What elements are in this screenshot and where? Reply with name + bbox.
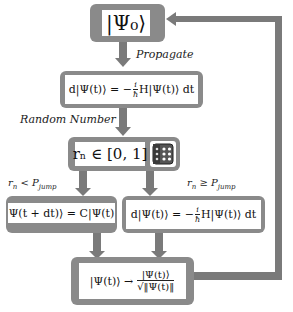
jump-equation-node: Ψ(t + dt)⟩ = C|Ψ(t)	[6, 196, 117, 233]
normalize-text: |Ψ(t)⟩ → |Ψ(t)⟩ √‖Ψ(t)‖	[79, 263, 186, 299]
random-number-text: rₙ ∈ [0, 1]	[75, 142, 145, 166]
arrow-head-random	[115, 127, 131, 136]
loop-top-segment	[175, 16, 282, 22]
fraction-i-hbar: i ħ	[133, 81, 138, 99]
random-number-expr: rₙ ∈ [0, 1]	[73, 145, 148, 163]
arrow-shaft-random	[119, 108, 127, 127]
normalize-eq-lhs: |Ψ(t)⟩ →	[90, 275, 133, 288]
frac-den-2: ħ	[195, 214, 200, 224]
normalize-den: √‖Ψ(t)‖	[137, 280, 174, 292]
normalize-node: |Ψ(t)⟩ → |Ψ(t)⟩ √‖Ψ(t)‖	[71, 257, 194, 305]
initial-state-node: |Ψ₀⟩	[90, 4, 165, 42]
arrow-shaft-propagate	[119, 42, 127, 58]
no-jump-eq-lhs: d|Ψ(t)⟩ = −	[131, 208, 194, 221]
arrow-shaft-nojump-to-normalize	[155, 233, 163, 251]
no-jump-equation-text: d|Ψ(t)⟩ = − i ħ H|Ψ(t)⟩ dt	[126, 200, 261, 229]
propagate-equation-text: d|Ψ(t)⟩ = − i ħ H|Ψ(t)⟩ dt	[65, 75, 198, 104]
random-number-label: Random Number	[20, 113, 116, 126]
frac-num: i	[134, 81, 137, 89]
normalize-num: |Ψ(t)⟩	[142, 270, 170, 280]
arrow-shaft-no-jump	[146, 171, 154, 188]
arrow-shaft-jump-to-normalize	[93, 233, 101, 251]
loop-bottom-segment	[194, 272, 282, 280]
jump-condition-label: rn < Pjump	[8, 177, 57, 191]
propagate-eq-rhs: H|Ψ(t)⟩ dt	[139, 83, 194, 96]
jump-eq-expr: Ψ(t + dt)⟩ = C|Ψ(t)	[9, 207, 115, 220]
no-jump-equation-node: d|Ψ(t)⟩ = − i ħ H|Ψ(t)⟩ dt	[122, 196, 265, 233]
normalize-fraction: |Ψ(t)⟩ √‖Ψ(t)‖	[137, 270, 174, 292]
arrow-head-no-jump	[142, 188, 158, 196]
jump-op: < P	[17, 177, 38, 188]
nojump-op: ≥ P	[196, 177, 217, 188]
propagate-eq-lhs: d|Ψ(t)⟩ = −	[69, 83, 132, 96]
random-number-node: rₙ ∈ [0, 1]	[68, 137, 180, 171]
loop-right-segment	[275, 16, 282, 280]
dice-icon	[150, 141, 176, 167]
initial-state-text: |Ψ₀⟩	[102, 10, 150, 36]
propagate-equation-node: d|Ψ(t)⟩ = − i ħ H|Ψ(t)⟩ dt	[60, 71, 203, 108]
propagate-label: Propagate	[136, 48, 193, 61]
jump-equation-text: Ψ(t + dt)⟩ = C|Ψ(t)	[8, 203, 115, 223]
no-jump-eq-rhs: H|Ψ(t)⟩ dt	[201, 208, 256, 221]
nojump-sub: jump	[218, 183, 236, 191]
arrow-shaft-jump	[79, 171, 87, 188]
no-jump-condition-label: rn ≥ Pjump	[187, 177, 236, 191]
loop-arrow-head	[166, 12, 176, 26]
jump-sub: jump	[39, 183, 57, 191]
initial-state-label: |Ψ₀⟩	[106, 11, 146, 35]
frac-num-2: i	[196, 206, 199, 214]
fraction-i-hbar-2: i ħ	[195, 206, 200, 224]
arrow-head-jump	[75, 188, 91, 196]
arrow-head-propagate	[115, 58, 131, 67]
frac-den: ħ	[133, 89, 138, 99]
